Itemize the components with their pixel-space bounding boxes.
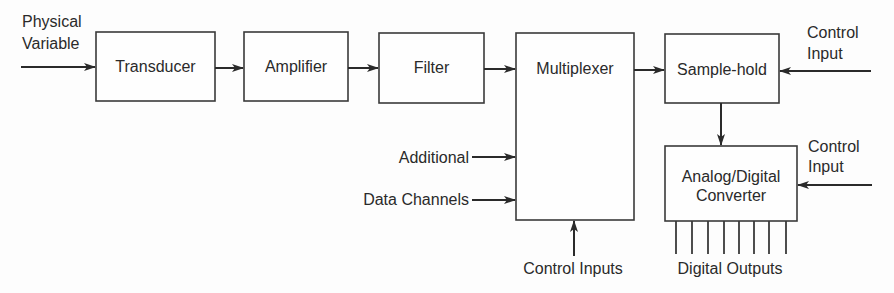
- digital-output-lines: [676, 221, 786, 254]
- amplifier-label: Amplifier: [265, 58, 328, 75]
- data-channels-label: Data Channels: [363, 191, 469, 208]
- transducer-label: Transducer: [115, 58, 196, 75]
- physical-variable-label-line1: Physical: [22, 13, 82, 30]
- control-inputs-label: Control Inputs: [523, 260, 623, 277]
- adc-label-line2: Converter: [696, 187, 767, 204]
- multiplexer-block: Multiplexer: [516, 33, 634, 220]
- adc-control-label-line2: Input: [808, 158, 844, 175]
- sample-hold-control-label-line2: Input: [807, 45, 843, 62]
- sample-hold-control-label-line1: Control: [807, 24, 859, 41]
- adc-label-line1: Analog/Digital: [682, 168, 781, 185]
- adc-block: Analog/Digital Converter: [665, 146, 797, 221]
- block-diagram: Physical Variable Transducer Amplifier F…: [0, 0, 894, 293]
- multiplexer-label: Multiplexer: [536, 60, 614, 77]
- additional-label: Additional: [399, 149, 469, 166]
- physical-variable-label-line2: Variable: [22, 35, 80, 52]
- amplifier-block: Amplifier: [244, 32, 348, 101]
- digital-outputs-label: Digital Outputs: [678, 260, 783, 277]
- sample-hold-label: Sample-hold: [677, 61, 767, 78]
- filter-label: Filter: [414, 59, 450, 76]
- filter-block: Filter: [379, 33, 484, 103]
- transducer-block: Transducer: [96, 32, 215, 101]
- sample-hold-block: Sample-hold: [665, 34, 779, 103]
- adc-control-label-line1: Control: [808, 138, 860, 155]
